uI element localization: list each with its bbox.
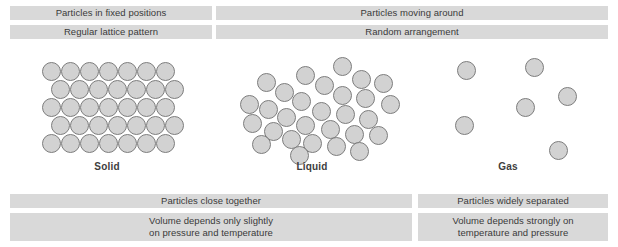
liquid-particle	[296, 116, 315, 135]
solid-particle	[156, 62, 175, 81]
liquid-particle	[243, 114, 262, 133]
solid-particle	[108, 116, 127, 135]
liquid-particle	[257, 73, 276, 92]
state-label-liquid: Liquid	[296, 161, 327, 172]
caption-bar-gas-widely-separated: Particles widely separated	[418, 194, 608, 208]
solid-particle	[165, 116, 184, 135]
caption-bar-text: Particles moving around	[216, 7, 608, 20]
solid-particle	[108, 80, 127, 99]
solid-particle	[80, 62, 99, 81]
solid-particle	[61, 62, 80, 81]
solid-particle	[89, 80, 108, 99]
caption-bar-fluid-moving-around: Particles moving around	[216, 6, 608, 20]
liquid-particle	[259, 100, 278, 119]
liquid-particle	[369, 126, 388, 145]
liquid-particle	[356, 89, 375, 108]
liquid-particle	[333, 57, 352, 76]
caption-line: on pressure and temperature	[149, 227, 273, 240]
caption-line: Particles moving around	[360, 7, 463, 20]
gas-particle	[457, 61, 476, 80]
caption-line: Particles in fixed positions	[56, 7, 167, 20]
caption-line: Particles widely separated	[457, 195, 569, 208]
liquid-particle	[374, 74, 393, 93]
solid-particle	[42, 98, 61, 117]
state-label-solid: Solid	[94, 161, 119, 172]
caption-bar-condensed-close-together: Particles close together	[10, 194, 412, 208]
solid-particle	[51, 80, 70, 99]
solid-particle	[137, 134, 156, 153]
caption-bar-fluid-random-arrangement: Random arrangement	[216, 25, 608, 39]
solid-particle	[99, 134, 118, 153]
state-label-gas: Gas	[498, 161, 518, 172]
solid-particle	[42, 134, 61, 153]
gas-particle	[525, 58, 544, 77]
solid-particle	[70, 80, 89, 99]
solid-particle	[99, 62, 118, 81]
solid-particle	[156, 134, 175, 153]
liquid-particle	[350, 142, 369, 161]
liquid-particle	[333, 86, 352, 105]
solid-particle	[99, 98, 118, 117]
solid-particle	[118, 62, 137, 81]
solid-particle	[61, 134, 80, 153]
solid-particle	[61, 98, 80, 117]
solid-particle	[80, 98, 99, 117]
caption-line: Regular lattice pattern	[64, 26, 158, 39]
solid-particle	[51, 116, 70, 135]
caption-bar-gas-volume-behaviour: Volume depends strongly ontemperature an…	[418, 213, 608, 241]
gas-particle	[516, 98, 535, 117]
solid-particle	[70, 116, 89, 135]
solid-particle	[146, 116, 165, 135]
liquid-particle	[252, 135, 271, 154]
gas-particle	[455, 116, 474, 135]
states-of-matter-figure: Particles in fixed positionsParticles mo…	[0, 0, 618, 247]
caption-bar-solid-fixed-positions: Particles in fixed positions	[10, 6, 212, 20]
caption-bar-text: Regular lattice pattern	[10, 26, 212, 39]
solid-particle	[89, 116, 108, 135]
caption-bar-text: Volume depends strongly ontemperature an…	[418, 215, 608, 240]
solid-particle	[127, 116, 146, 135]
liquid-particle	[381, 95, 400, 114]
solid-particle	[156, 98, 175, 117]
solid-particle	[137, 98, 156, 117]
caption-bar-text: Volume depends only slightlyon pressure …	[10, 215, 412, 240]
liquid-particle	[352, 70, 371, 89]
liquid-particle	[292, 92, 311, 111]
caption-bar-text: Particles widely separated	[418, 195, 608, 208]
caption-bar-condensed-volume-behaviour: Volume depends only slightlyon pressure …	[10, 213, 412, 241]
caption-bar-text: Particles in fixed positions	[10, 7, 212, 20]
liquid-particle	[312, 102, 331, 121]
liquid-particle	[327, 137, 346, 156]
caption-line: Volume depends only slightly	[149, 215, 273, 228]
gas-particle	[549, 141, 568, 160]
caption-bar-text: Random arrangement	[216, 26, 608, 39]
liquid-particle	[345, 125, 364, 144]
solid-particle	[137, 62, 156, 81]
gas-particle	[558, 87, 577, 106]
caption-bar-solid-regular-lattice: Regular lattice pattern	[10, 25, 212, 39]
caption-line: Volume depends strongly on	[452, 215, 573, 228]
caption-line: temperature and pressure	[458, 227, 569, 240]
solid-particle	[165, 80, 184, 99]
solid-particle	[42, 62, 61, 81]
liquid-particle	[315, 76, 334, 95]
caption-line: Random arrangement	[365, 26, 458, 39]
liquid-particle	[240, 95, 259, 114]
liquid-particle	[296, 66, 315, 85]
solid-particle	[80, 134, 99, 153]
solid-particle	[118, 98, 137, 117]
caption-bar-text: Particles close together	[10, 195, 412, 208]
liquid-particle	[336, 105, 355, 124]
caption-line: Particles close together	[161, 195, 261, 208]
solid-particle	[118, 134, 137, 153]
solid-particle	[127, 80, 146, 99]
solid-particle	[146, 80, 165, 99]
